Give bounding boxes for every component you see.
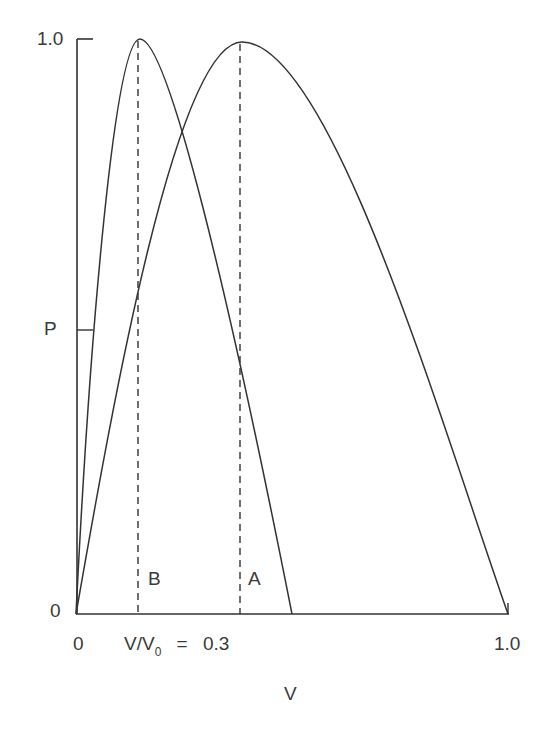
y-label-top: 1.0: [37, 28, 63, 50]
x-axis-title: V: [284, 683, 297, 705]
ratio-v: V/V: [124, 633, 155, 654]
power-curves-diagram: [0, 0, 555, 736]
x-label-zero: 0: [73, 633, 84, 655]
y-label-zero: 0: [50, 600, 61, 622]
ratio-sub: 0: [155, 645, 162, 659]
x-label-one: 1.0: [494, 633, 520, 655]
ratio-value: 0.3: [203, 633, 229, 654]
y-label-p: P: [44, 318, 57, 340]
curve-a: [76, 42, 508, 614]
ratio-eq: =: [177, 633, 188, 654]
marker-label-a: A: [248, 568, 261, 590]
ratio-annotation: V/V0 = 0.3: [124, 633, 229, 659]
marker-label-b: B: [148, 568, 161, 590]
